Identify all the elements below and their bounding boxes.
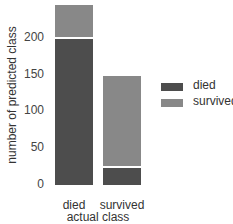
y-tick-100: 100 (20, 103, 44, 117)
y-tick-200: 200 (20, 30, 44, 44)
bar-died-died-segment (55, 39, 93, 185)
bar-survived-survived-segment (103, 76, 141, 167)
bar-survived-died-segment (103, 168, 141, 185)
y-axis-label: number of predicted class (5, 25, 19, 165)
legend-label-died: died (193, 78, 216, 92)
legend-swatch-survived (161, 99, 183, 107)
x-axis-label: actual class (48, 210, 148, 224)
y-tick-50: 50 (20, 140, 44, 154)
legend-swatch-died (161, 83, 183, 91)
y-tick-150: 150 (20, 67, 44, 81)
bar-died-survived-segment (55, 5, 93, 38)
legend-label-survived: survived (193, 94, 233, 108)
y-tick-0: 0 (20, 177, 44, 191)
